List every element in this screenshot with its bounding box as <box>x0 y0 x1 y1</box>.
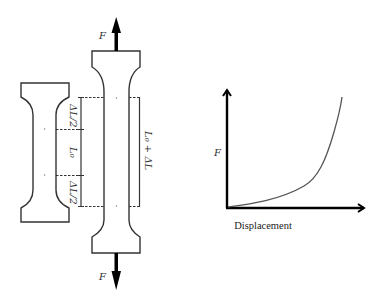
x-axis-label: Displacement <box>234 220 292 231</box>
original-specimen <box>21 83 69 222</box>
arrow-up-icon <box>112 17 122 33</box>
original-specimen-outline <box>21 83 69 222</box>
gauge-length-label: L₀ <box>68 146 79 158</box>
force-label-top: F <box>98 30 107 41</box>
gauge-mark-top <box>116 97 117 98</box>
delta-l-half-top-label: ΔL/2 <box>68 103 79 128</box>
force-displacement-curve <box>228 97 342 207</box>
delta-l-half-bottom-label: ΔL/2 <box>68 180 79 205</box>
force-arrow-bottom <box>112 253 122 290</box>
arrow-down-icon <box>112 271 122 290</box>
loaded-specimen-outline <box>92 51 140 253</box>
force-displacement-chart: F Displacement <box>213 90 364 231</box>
gauge-mark-top <box>44 128 45 129</box>
tensile-test-diagram: F F ΔL/2 L₀ ΔL/2 L₀ + ΔL F Displacement <box>0 0 383 303</box>
gauge-mark-bottom <box>116 205 117 206</box>
y-axis-label: F <box>213 147 222 158</box>
force-arrow-top <box>112 17 122 51</box>
force-label-bottom: F <box>98 271 107 282</box>
elongated-length-label: L₀ + ΔL <box>143 130 154 171</box>
loaded-specimen <box>92 51 140 253</box>
gauge-mark-bottom <box>44 174 45 175</box>
